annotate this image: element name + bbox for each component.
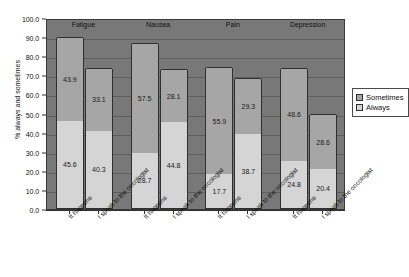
bar-value-label: 17.7 [213,188,227,195]
y-tick-label: 100.0 [22,16,39,23]
y-tick-label: 90.0 [26,35,39,42]
bar-pain-it-happens: 17.755.9 [205,68,233,209]
y-tick-label: 30.0 [26,149,39,156]
y-tick-label: 0.0 [30,207,39,214]
group-title-pain: Pain [226,21,240,28]
bar-value-label: 20.4 [316,185,330,192]
stacked-bar-chart: % always and sometimes 100.090.080.070.0… [0,0,409,277]
legend-item: Always [356,103,404,112]
y-tick-label: 20.0 [26,168,39,175]
bar-value-label: 43.9 [63,76,77,83]
bar-value-label: 28.6 [316,139,330,146]
bar-segment-sometimes: 48.6 [281,68,307,161]
y-tick-label: 60.0 [26,92,39,99]
gridline [47,39,344,40]
bar-segment-sometimes: 55.9 [206,67,232,174]
bar-value-label: 24.8 [287,181,301,188]
bar-segment-sometimes: 29.3 [235,78,261,134]
bar-value-label: 33.1 [92,96,106,103]
gridline [47,58,344,59]
legend: SometimesAlways [352,88,409,117]
y-tick-label: 40.0 [26,130,39,137]
legend-item: Sometimes [356,93,404,102]
bar-value-label: 45.6 [63,161,77,168]
bar-fatigue-i-speak: 40.333.1 [85,69,113,209]
bar-segment-sometimes: 43.9 [57,37,83,121]
bar-value-label: 38.7 [242,168,256,175]
bar-pain-i-speak: 38.729.3 [234,79,262,209]
bar-segment-sometimes: 28.6 [310,114,336,169]
bar-value-label: 29.3 [242,103,256,110]
bar-value-label: 48.6 [287,111,301,118]
bar-nausea-i-speak: 44.828.1 [160,70,188,209]
y-tick-label: 50.0 [26,111,39,118]
bar-depression-it-happens: 24.848.6 [280,69,308,209]
bar-value-label: 44.8 [167,162,181,169]
bar-segment-sometimes: 28.1 [161,69,187,123]
bar-value-label: 28.1 [167,93,181,100]
bar-segment-sometimes: 57.5 [132,43,158,153]
bar-value-label: 57.5 [138,95,152,102]
y-tick-label: 10.0 [26,187,39,194]
bar-segment-sometimes: 33.1 [86,68,112,131]
group-title-depression: Depression [290,21,325,28]
bar-value-label: 40.3 [92,166,106,173]
group-title-fatigue: Fatigue [72,21,95,28]
legend-label: Sometimes [366,93,404,102]
plot-area: 45.643.940.333.128.757.544.828.117.755.9… [46,19,345,210]
group-title-nausea: Nausea [146,21,170,28]
y-tick-label: 80.0 [26,54,39,61]
y-axis: 100.090.080.070.060.050.040.030.020.010.… [0,19,46,210]
legend-label: Always [366,103,390,112]
legend-swatch-sometimes [356,94,363,101]
bar-value-label: 55.9 [213,118,227,125]
y-tick-label: 70.0 [26,73,39,80]
legend-swatch-always [356,104,363,111]
bar-fatigue-it-happens: 45.643.9 [56,38,84,209]
bar-segment-always: 45.6 [57,121,83,208]
